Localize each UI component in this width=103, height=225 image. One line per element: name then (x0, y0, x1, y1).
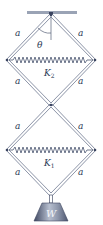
bottom-rhombus (6, 104, 96, 196)
label-side-a-1: a (15, 28, 20, 38)
label-side-a-6: a (78, 121, 83, 131)
spring-k1 (9, 147, 93, 153)
label-side-a-8: a (78, 167, 83, 177)
weight-hook (50, 195, 53, 203)
label-weight: W (46, 208, 57, 219)
label-spring-k1: K1 (43, 158, 55, 169)
label-spring-k2: K2 (43, 68, 55, 79)
linkage-diagram: a a θ a a a a a a K2 K1 W (0, 0, 103, 225)
label-theta: θ (37, 40, 43, 50)
label-side-a-4: a (78, 76, 83, 86)
spring-k2 (9, 57, 93, 63)
label-side-a-2: a (78, 28, 83, 38)
label-side-a-3: a (15, 76, 20, 86)
label-side-a-5: a (15, 121, 20, 131)
label-side-a-7: a (15, 167, 20, 177)
